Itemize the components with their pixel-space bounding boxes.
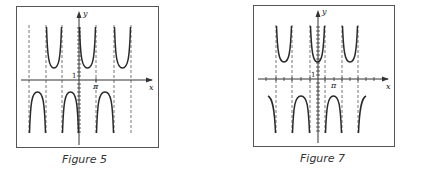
figure-7-y-label: y	[321, 7, 327, 16]
figure-5-one-label: 1	[72, 72, 76, 80]
figure-5-frame	[17, 7, 159, 148]
figure-7-graph: y x π 1	[254, 6, 395, 147]
figure-7-one-label: 1	[311, 71, 315, 79]
figures-canvas: y x π 1	[0, 0, 430, 174]
figure-5-x-label: x	[149, 83, 154, 92]
figure-7-caption: Figure 7	[300, 152, 345, 165]
figure-5-y-label: y	[82, 9, 88, 18]
figure-5-pi-label: π	[92, 82, 99, 91]
figure-5-graph: y x π 1	[17, 7, 159, 148]
figure-5-caption: Figure 5	[62, 153, 107, 166]
figure-7-x-label: x	[386, 82, 391, 91]
figure-7-pi-label: π	[330, 81, 337, 90]
